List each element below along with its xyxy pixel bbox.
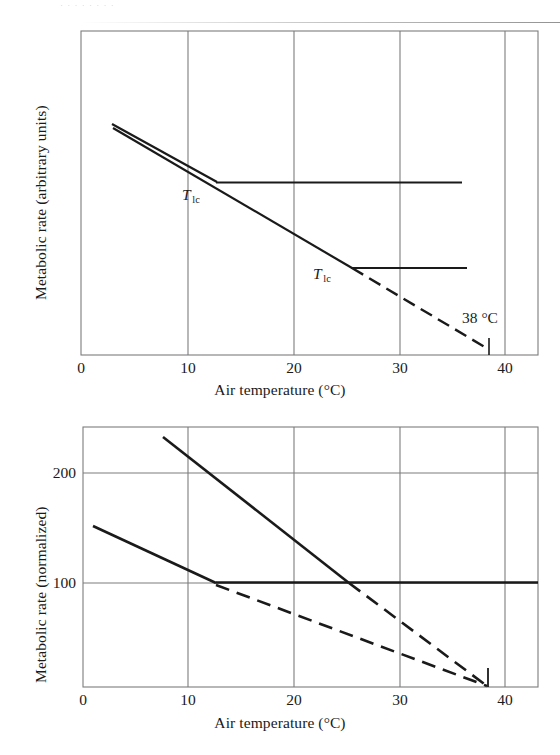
steep-conductance-extrapolation: [349, 583, 487, 686]
shallow-conductance-extrapolation: [216, 585, 487, 686]
bottom-ytick-200: 200: [38, 464, 76, 482]
bottom-panel-xlabel: Air temperature (°C): [0, 714, 560, 732]
top-panel: Metabolic rate (arbitrary units) 0 10 20…: [0, 0, 560, 380]
bottom-plot-frame: [83, 427, 538, 687]
tlc-upper-label: Tlc: [182, 186, 200, 205]
top-xtick-30: 30: [392, 359, 408, 377]
tlc-upper-symbol: T: [182, 186, 191, 203]
top-xtick-40: 40: [497, 359, 513, 377]
bottom-gridlines: [83, 427, 538, 687]
bottom-ytick-100: 100: [38, 574, 76, 592]
conductance-line-upper: [112, 124, 217, 182]
top-panel-xlabel: Air temperature (°C): [0, 381, 560, 399]
top-xtick-20: 20: [286, 359, 302, 377]
top-xtick-10: 10: [180, 359, 196, 377]
bottom-panel-ylabel: Metabolic rate (normalized): [32, 506, 50, 683]
bottom-panel: Metabolic rate (normalized) 200 100 0 10…: [0, 405, 560, 755]
steep-conductance-poorly-insulated: [163, 437, 349, 583]
tlc-lower-symbol: T: [313, 265, 322, 282]
shallow-conductance-well-insulated: [93, 526, 216, 583]
body-temperature-label: 38 °C: [462, 309, 498, 327]
tlc-lower-subscript: lc: [322, 273, 331, 284]
tlc-upper-subscript: lc: [191, 194, 200, 205]
top-panel-ylabel: Metabolic rate (arbitrary units): [32, 105, 50, 300]
top-xtick-0: 0: [77, 359, 85, 377]
bottom-data-curves: [93, 437, 538, 686]
figure-root: · · · · · · · ·: [0, 0, 560, 755]
tlc-lower-label: Tlc: [313, 265, 331, 284]
top-gridlines: [188, 31, 505, 355]
top-plot-frame: [81, 31, 538, 355]
bottom-xtick-20: 20: [286, 691, 302, 709]
bottom-xtick-40: 40: [497, 691, 513, 709]
bottom-xtick-0: 0: [79, 691, 87, 709]
bottom-xtick-10: 10: [180, 691, 196, 709]
top-data-curves: [112, 124, 488, 349]
conductance-line-lower-solid: [113, 128, 352, 268]
bottom-xtick-30: 30: [392, 691, 408, 709]
